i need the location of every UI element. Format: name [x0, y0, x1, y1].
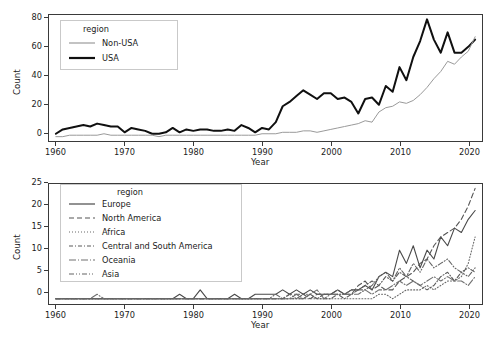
legend-key-africa-icon [67, 227, 97, 237]
top-xtick-1960: 1960 [42, 147, 69, 157]
top-ytickmark [44, 104, 48, 105]
top-ytickmark [44, 46, 48, 47]
legend-label-europe: Europe [102, 199, 131, 209]
bottom-xtick-1960: 1960 [42, 310, 69, 320]
top-ytickmark [44, 133, 48, 134]
legend-label-non-usa: Non-USA [102, 38, 138, 48]
bottom-xtickmark [193, 305, 194, 309]
top-xtick-2000: 2000 [318, 147, 345, 157]
bottom-xtick-1990: 1990 [249, 310, 276, 320]
legend-item-usa[interactable]: USA [67, 53, 119, 63]
bottom-xtick-1970: 1970 [111, 310, 138, 320]
bottom-xtickmark [262, 305, 263, 309]
top-xtickmark [469, 142, 470, 146]
top-xtick-1990: 1990 [249, 147, 276, 157]
legend-key-usa-icon [67, 53, 97, 63]
legend-label-africa: Africa [102, 227, 125, 237]
legend-key-north-america-icon [67, 213, 97, 223]
top-xtick-2010: 2010 [387, 147, 414, 157]
bottom-ytick-15: 15 [20, 221, 42, 231]
bottom-xtick-1980: 1980 [180, 310, 207, 320]
legend-label-asia: Asia [102, 269, 119, 279]
bottom-ytickmark [44, 292, 48, 293]
top-xtick-1980: 1980 [180, 147, 207, 157]
legend-label-central-and-south-america: Central and South America [102, 241, 213, 251]
top-ytickmark [44, 75, 48, 76]
bottom-xtickmark [400, 305, 401, 309]
legend-label-north-america: North America [102, 213, 161, 223]
bottom-ytickmark [44, 204, 48, 205]
bottom-ytick-0: 0 [20, 287, 42, 297]
top-xtickmark [400, 142, 401, 146]
legend-item-africa[interactable]: Africa [67, 227, 125, 237]
top-xtickmark [193, 142, 194, 146]
bottom-ytickmark [44, 226, 48, 227]
bottom-xtickmark [469, 305, 470, 309]
top-xtick-2020: 2020 [456, 147, 483, 157]
bottom-ytick-10: 10 [20, 243, 42, 253]
top-legend-title: region [83, 24, 109, 34]
legend-key-oceania-icon [67, 255, 97, 265]
legend-item-asia[interactable]: Asia [67, 269, 119, 279]
bottom-legend: region Europe North America Africa [60, 184, 242, 282]
bottom-ytickmark [44, 182, 48, 183]
top-ytickmark [44, 17, 48, 18]
legend-item-non-usa[interactable]: Non-USA [67, 38, 138, 48]
top-xtickmark [55, 142, 56, 146]
bottom-xtickmark [55, 305, 56, 309]
bottom-xtickmark [331, 305, 332, 309]
top-xtickmark [124, 142, 125, 146]
bottom-y-axis-title: Count [12, 234, 22, 260]
top-y-axis-title: Count [12, 69, 22, 95]
legend-item-central-and-south-america[interactable]: Central and South America [67, 241, 213, 251]
legend-item-north-america[interactable]: North America [67, 213, 161, 223]
top-ytick-20: 20 [20, 99, 42, 109]
top-ytick-40: 40 [20, 70, 42, 80]
legend-key-europe-icon [67, 199, 97, 209]
bottom-ytickmark [44, 270, 48, 271]
bottom-xtickmark [124, 305, 125, 309]
legend-key-non-usa-icon [67, 38, 97, 48]
bottom-ytick-20: 20 [20, 199, 42, 209]
legend-label-usa: USA [102, 53, 119, 63]
top-ytick-0: 0 [20, 128, 42, 138]
bottom-ytick-25: 25 [20, 177, 42, 187]
bottom-panel: 25 20 15 10 5 0 1960 1970 1980 1990 2000… [0, 170, 498, 339]
bottom-ytickmark [44, 248, 48, 249]
top-xtick-1970: 1970 [111, 147, 138, 157]
top-xtickmark [331, 142, 332, 146]
legend-label-oceania: Oceania [102, 255, 135, 265]
bottom-xtick-2020: 2020 [456, 310, 483, 320]
bottom-legend-title: region [117, 187, 143, 197]
legend-item-oceania[interactable]: Oceania [67, 255, 135, 265]
top-ytick-60: 60 [20, 41, 42, 51]
bottom-ytick-5: 5 [20, 265, 42, 275]
bottom-xtick-2000: 2000 [318, 310, 345, 320]
legend-key-central-and-south-america-icon [67, 241, 97, 251]
bottom-xtick-2010: 2010 [387, 310, 414, 320]
top-xtickmark [262, 142, 263, 146]
top-x-axis-title: Year [251, 157, 269, 167]
legend-key-asia-icon [67, 269, 97, 279]
figure-canvas: 80 60 40 20 0 1960 1970 1980 1990 2000 2… [0, 0, 498, 339]
bottom-x-axis-title: Year [251, 320, 269, 330]
top-legend: region Non-USA USA [60, 20, 178, 70]
top-panel: 80 60 40 20 0 1960 1970 1980 1990 2000 2… [0, 0, 498, 170]
top-ytick-80: 80 [20, 12, 42, 22]
legend-item-europe[interactable]: Europe [67, 199, 131, 209]
